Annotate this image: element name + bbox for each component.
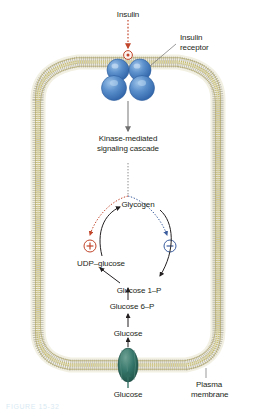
glucose-1-p-label: Glucose 1–P: [117, 286, 162, 296]
plasma-membrane-label-line1: Plasma: [196, 380, 222, 390]
insulin-receptor-label-line1: Insulin: [180, 33, 202, 43]
insulin-label: Insulin: [117, 10, 139, 20]
insulin-molecule: [124, 51, 133, 60]
plasma-membrane-label-line2: membrane: [191, 390, 228, 400]
insulin-glycogen-signaling-diagram: Insulin Insulin receptor Kinase-mediated…: [0, 0, 256, 413]
stimulate-node: [84, 240, 96, 252]
udp-glucose-label: UDP–glucose: [77, 259, 125, 269]
kinase-cascade-label-line2: signaling cascade: [97, 144, 159, 154]
glycogen-label: Glycogen: [122, 200, 155, 210]
figure-caption: FIGURE 15-32: [6, 403, 60, 410]
glucose-6-p-label: Glucose 6–P: [110, 302, 155, 312]
glucose-intracellular-label: Glucose: [114, 329, 143, 339]
glucose-extracellular-label: Glucose: [114, 390, 143, 400]
insulin-receptor-label-line2: receptor: [180, 43, 209, 53]
kinase-cascade-label-line1: Kinase-mediated: [99, 134, 158, 144]
